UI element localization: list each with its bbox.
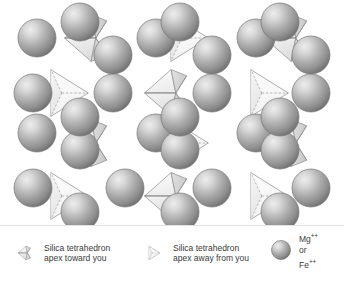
legend-cation-mg: Mg++ — [299, 230, 318, 245]
cation-sphere — [161, 3, 199, 41]
cation-fe-symbol: Fe — [299, 260, 309, 270]
silicate-structure-figure: Silica tetrahedron apex toward you Silic… — [0, 0, 344, 286]
legend-cation-fe: Fe++ — [299, 256, 318, 271]
cation-sphere — [292, 169, 330, 207]
cation-mg-symbol: Mg — [299, 234, 311, 244]
cation-mg-charge: ++ — [311, 232, 318, 239]
legend-line-2: apex toward you — [44, 253, 110, 264]
cation-sphere — [18, 114, 56, 152]
legend-label-apex-away: Silica tetrahedron apex away from you — [171, 243, 249, 264]
lattice-diagram — [0, 0, 344, 225]
cation-sphere — [261, 3, 299, 41]
cation-sphere — [161, 131, 199, 169]
legend-label-apex-toward: Silica tetrahedron apex toward you — [42, 243, 110, 264]
lattice-canvas — [0, 0, 344, 225]
cation-sphere — [61, 3, 99, 41]
cation-sphere — [14, 169, 52, 207]
cation-sphere — [292, 74, 330, 112]
cation-sphere — [161, 98, 199, 136]
legend-item-apex-toward: Silica tetrahedron apex toward you — [8, 236, 110, 270]
cation-sphere — [292, 36, 330, 74]
cation-sphere — [193, 36, 231, 74]
cation-sphere — [106, 169, 144, 207]
cation-sphere-icon — [268, 237, 294, 263]
legend-label-cation: Mg++ or Fe++ — [294, 230, 318, 271]
tetrahedron-apex-toward-icon — [8, 236, 42, 270]
cation-sphere — [261, 98, 299, 136]
cation-sphere — [94, 74, 132, 112]
legend-line-2: apex away from you — [173, 253, 249, 264]
tetrahedron-apex-away-icon — [137, 236, 171, 270]
legend: Silica tetrahedron apex toward you Silic… — [0, 226, 344, 286]
legend-cation-or: or — [299, 245, 318, 256]
legend-line-1: Silica tetrahedron — [173, 243, 249, 254]
cation-sphere — [193, 169, 231, 207]
cation-sphere — [18, 19, 56, 57]
cation-sphere — [14, 74, 52, 112]
cation-sphere — [193, 74, 231, 112]
legend-item-cation: Mg++ or Fe++ — [268, 230, 318, 271]
cation-sphere — [261, 131, 299, 169]
legend-item-apex-away: Silica tetrahedron apex away from you — [137, 236, 249, 270]
cation-fe-charge: ++ — [309, 258, 316, 265]
cation-sphere — [61, 98, 99, 136]
cation-sphere — [94, 36, 132, 74]
cation-sphere — [61, 131, 99, 169]
legend-line-1: Silica tetrahedron — [44, 243, 110, 254]
